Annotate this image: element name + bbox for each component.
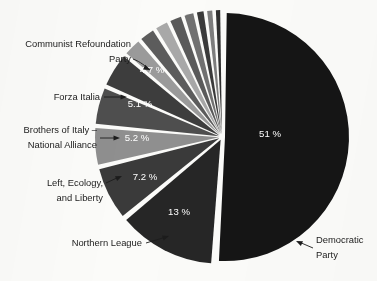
callout-label-forza-italia: Forza Italia	[54, 91, 101, 102]
pct-northern-league: 13 %	[168, 206, 190, 217]
pct-democratic-party: 51 %	[259, 128, 281, 139]
pct-left-ecology-and-liberty: 7.2 %	[133, 171, 158, 182]
callout-label-northern-league: Northern League	[72, 237, 142, 248]
pct-brothers-of-italy: 5.2 %	[125, 132, 150, 143]
pie-chart-canvas: 51 %13 %7.2 %5.2 %5.1 %4.7 % Communist R…	[0, 0, 377, 281]
pie-chart: 51 %13 %7.2 %5.2 %5.1 %4.7 % Communist R…	[0, 0, 377, 281]
pct-forza-italia: 5.1 %	[128, 98, 153, 109]
